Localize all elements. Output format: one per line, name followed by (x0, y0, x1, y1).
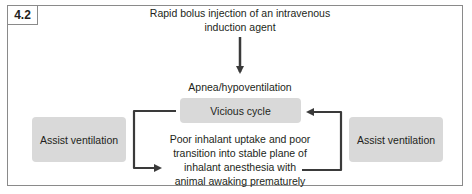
vicious-cycle-label: Vicious cycle (210, 105, 271, 117)
consequence-line-3: inhalant anesthesia with (160, 160, 320, 174)
consequence-line-4: animal awaking prematurely (160, 174, 320, 188)
assist-ventilation-right-box: Assist ventilation (349, 117, 443, 162)
assist-ventilation-left-box: Assist ventilation (32, 117, 126, 162)
consequence-line-2: transition into stable plane of (160, 146, 320, 160)
assist-left-label: Assist ventilation (40, 134, 118, 146)
vicious-cycle-box: Vicious cycle (180, 98, 301, 123)
consequence-line-1: Poor inhalant uptake and poor (160, 132, 320, 146)
effect-text: Apnea/hypoventilation (170, 80, 310, 94)
assist-right-label: Assist ventilation (357, 134, 435, 146)
consequence-text: Poor inhalant uptake and poor transition… (160, 132, 320, 188)
